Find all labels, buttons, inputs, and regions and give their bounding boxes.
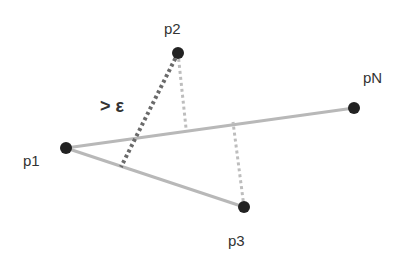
label-pN: pN xyxy=(363,69,382,86)
diagram-svg xyxy=(0,0,413,271)
distance-p3-to-p1pN xyxy=(233,122,244,207)
epsilon-annotation: > ε xyxy=(100,96,124,117)
diagram-canvas: p1 p2 p3 pN > ε xyxy=(0,0,413,271)
point-pN xyxy=(348,102,360,114)
edge-p1-p3 xyxy=(66,148,244,207)
point-p2 xyxy=(172,47,184,59)
label-p2: p2 xyxy=(164,20,181,37)
point-p3 xyxy=(238,201,250,213)
distance-p2-to-p1pN xyxy=(178,53,186,128)
point-p1 xyxy=(60,142,72,154)
label-p1: p1 xyxy=(23,152,40,169)
distance-p2-to-p1p3 xyxy=(121,53,178,167)
label-p3: p3 xyxy=(228,232,245,249)
